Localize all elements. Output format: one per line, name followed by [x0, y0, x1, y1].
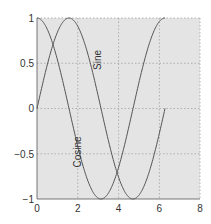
x-tick-6: 6	[157, 203, 163, 214]
x-tick-4: 4	[116, 203, 122, 214]
y-tick-neg0.5: −0.5	[14, 149, 34, 160]
sine-label: Sine	[92, 50, 103, 70]
y-tick-neg1: −1	[23, 194, 35, 205]
x-tick-2: 2	[75, 203, 81, 214]
cosine-label: Cosine	[72, 136, 83, 168]
y-tick-0: 0	[28, 103, 34, 114]
x-tick-8: 8	[197, 203, 203, 214]
y-tick-0.5: 0.5	[20, 58, 34, 69]
x-tick-0: 0	[34, 203, 40, 214]
y-tick-1: 1	[28, 13, 34, 24]
chart: 0 2 4 6 8 1 0.5 0 −0.5 −1 Sine Cosine	[0, 0, 211, 224]
